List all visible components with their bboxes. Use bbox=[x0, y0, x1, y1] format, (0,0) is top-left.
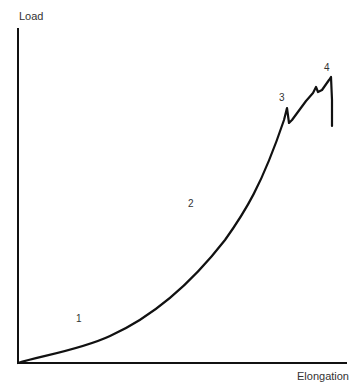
annotation-4: 4 bbox=[324, 63, 330, 73]
load-elongation-chart bbox=[0, 0, 358, 391]
y-axis-label: Load bbox=[19, 11, 43, 22]
load-curve bbox=[18, 77, 332, 363]
annotation-2: 2 bbox=[188, 199, 194, 209]
annotation-3: 3 bbox=[279, 93, 285, 103]
x-axis-label: Elongation bbox=[297, 371, 349, 382]
annotation-1: 1 bbox=[76, 314, 82, 324]
